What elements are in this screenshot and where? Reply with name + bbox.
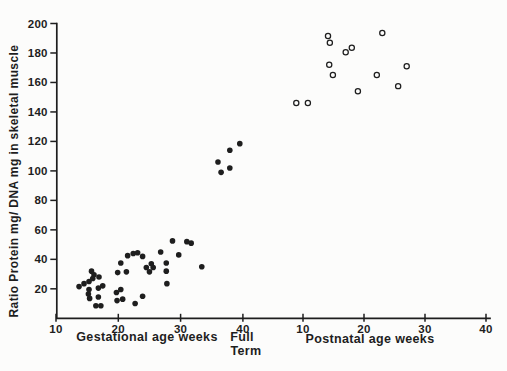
postnatal-data-point (305, 100, 310, 105)
figure: 2040608010012014016018020010203040102030… (0, 0, 507, 371)
gestational-data-point (147, 269, 153, 275)
gestational-data-point (118, 260, 124, 266)
y-tick-label: 120 (28, 135, 48, 147)
gestational-data-point (237, 141, 243, 147)
postnatal-data-point (327, 62, 332, 67)
postnatal-data-point (404, 64, 409, 69)
gestational-data-point (188, 240, 194, 246)
gestational-data-point (170, 238, 176, 244)
gestational-data-point (227, 147, 233, 153)
gestational-data-point (158, 249, 164, 255)
postnatal-data-point (325, 33, 330, 38)
y-tick-label: 20 (34, 283, 47, 295)
y-tick-label: 140 (28, 106, 48, 118)
gestational-data-point (163, 260, 169, 266)
gestational-data-point (87, 296, 93, 302)
gestational-data-point (93, 303, 99, 309)
y-tick-label: 40 (34, 253, 47, 265)
gestational-data-point (125, 253, 131, 259)
postnatal-data-point (294, 100, 299, 105)
postnatal-data-point (349, 45, 354, 50)
postnatal-data-point (396, 84, 401, 89)
gestational-data-point (124, 269, 130, 275)
y-tick-label: 200 (28, 18, 48, 30)
gestational-data-point (96, 274, 102, 280)
gestational-data-point (118, 287, 124, 293)
y-tick-label: 160 (28, 76, 48, 88)
gestational-data-point (218, 170, 224, 176)
gestational-data-point (114, 298, 120, 304)
postnatal-data-point (374, 72, 379, 77)
postnatal-data-point (380, 30, 385, 35)
x-tick-label: 40 (479, 323, 492, 335)
gestational-data-point (163, 268, 169, 274)
axes-lines (57, 24, 490, 319)
gestational-data-point (215, 159, 221, 165)
gestational-data-point (164, 281, 170, 287)
y-axis-title: Ratio Protein mg/ DNA mg in skeletal mus… (7, 48, 22, 318)
gestational-data-point (90, 276, 96, 282)
gestational-data-point (120, 296, 126, 302)
y-tick-label: 180 (28, 47, 48, 59)
gestational-data-point (140, 254, 146, 260)
x-axis-title-postnatal: Postnatal age weeks (270, 332, 470, 346)
full-term-annotation-line2: Term (216, 344, 276, 358)
gestational-data-point (199, 264, 205, 270)
gestational-data-point (150, 265, 156, 271)
gestational-data-point (115, 270, 121, 276)
y-tick-label: 80 (34, 194, 47, 206)
gestational-data-point (132, 301, 138, 307)
full-term-annotation-line1: Full (212, 330, 272, 344)
gestational-data-point (140, 293, 146, 299)
postnatal-data-point (327, 40, 332, 45)
gestational-data-point (96, 285, 102, 291)
scatter-plot: 2040608010012014016018020010203040102030… (0, 0, 507, 371)
gestational-data-point (98, 303, 104, 309)
gestational-data-point (76, 284, 82, 290)
gestational-data-point (135, 250, 141, 256)
postnatal-data-point (330, 72, 335, 77)
y-tick-label: 60 (34, 224, 47, 236)
gestational-data-point (227, 165, 233, 171)
postnatal-data-point (343, 50, 348, 55)
gestational-data-point (96, 294, 102, 300)
gestational-data-point (176, 252, 182, 258)
gestational-data-point (81, 281, 87, 287)
postnatal-data-point (355, 89, 360, 94)
y-tick-label: 100 (28, 165, 48, 177)
